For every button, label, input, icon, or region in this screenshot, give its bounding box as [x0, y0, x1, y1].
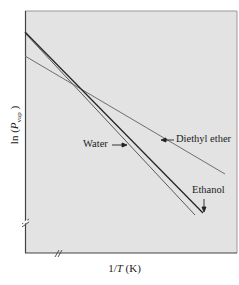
x-axis-label: 1/T (K): [0, 262, 239, 274]
plot-area: [25, 11, 237, 253]
x-axis-label-suffix: (K): [123, 262, 141, 274]
y-axis-label: ln (Pvap ): [8, 90, 22, 160]
y-axis-label-prefix: ln (: [8, 129, 20, 144]
y-axis-label-suffix: ): [8, 106, 20, 112]
y-axis-label-sub: vap: [15, 112, 23, 122]
diethyl-ether-label: Diethyl ether: [176, 133, 231, 144]
y-axis-label-var: P: [8, 122, 20, 129]
x-axis-label-prefix: 1/: [108, 262, 117, 274]
water-label: Water: [83, 138, 108, 149]
ethanol-label: Ethanol: [192, 184, 225, 195]
